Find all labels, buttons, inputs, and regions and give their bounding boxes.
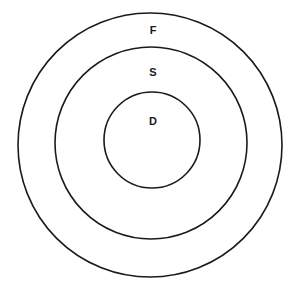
label-s: S xyxy=(149,67,156,78)
concentric-circles-diagram xyxy=(0,0,300,288)
inner-circle-d xyxy=(104,92,200,188)
outer-circle-f xyxy=(18,13,282,277)
label-f: F xyxy=(150,25,157,36)
label-d: D xyxy=(149,116,157,127)
